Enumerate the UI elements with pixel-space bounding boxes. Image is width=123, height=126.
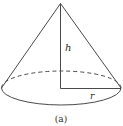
cone-left-edge xyxy=(2,4,61,89)
base-ellipse-back-dashed xyxy=(2,71,122,88)
radius-label: r xyxy=(90,91,95,101)
cone-diagram: h r (a) xyxy=(0,0,123,126)
height-label: h xyxy=(65,42,71,53)
figure-caption: (a) xyxy=(55,114,67,124)
base-ellipse-front xyxy=(2,88,122,105)
